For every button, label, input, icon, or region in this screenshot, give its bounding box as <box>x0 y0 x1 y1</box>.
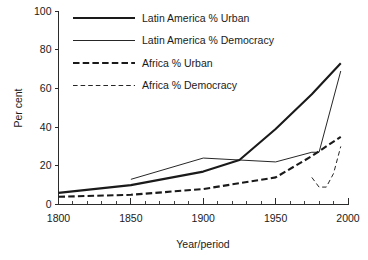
x-tick-label: 1800 <box>47 212 71 224</box>
y-tick-label: 40 <box>40 121 52 133</box>
chart-legend: Latin America % UrbanLatin America % Dem… <box>73 12 275 92</box>
x-tick-label: 1850 <box>119 212 143 224</box>
y-tick-label: 100 <box>34 5 52 17</box>
legend-label: Africa % Urban <box>142 57 213 69</box>
y-tick-label: 60 <box>40 82 52 94</box>
legend-label: Africa % Democracy <box>142 79 238 91</box>
x-axis-tick-labels: 18001850190019502000 <box>47 212 360 224</box>
x-tick-label: 2000 <box>336 212 360 224</box>
y-axis-tick-labels: 020406080100 <box>34 5 52 211</box>
y-axis-title: Per cent <box>12 88 24 127</box>
y-axis-ticks <box>55 11 59 205</box>
line-chart: 020406080100 18001850190019502000 Per ce… <box>0 0 368 260</box>
x-axis-title: Year/period <box>176 238 229 250</box>
y-tick-label: 0 <box>46 198 52 210</box>
y-tick-label: 80 <box>40 43 52 55</box>
x-tick-label: 1950 <box>264 212 288 224</box>
legend-label: Latin America % Urban <box>142 12 250 24</box>
x-tick-label: 1900 <box>192 212 216 224</box>
legend-label: Latin America % Democracy <box>142 34 275 46</box>
chart-container: 020406080100 18001850190019502000 Per ce… <box>0 0 368 260</box>
y-tick-label: 20 <box>40 159 52 171</box>
